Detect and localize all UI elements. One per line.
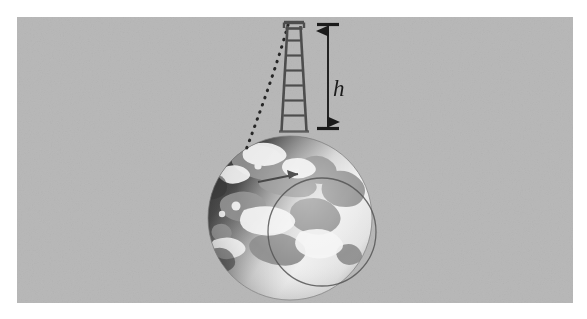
figure-root: h — [0, 0, 587, 319]
figure-panel: h — [17, 17, 573, 303]
height-label: h — [333, 77, 345, 100]
continents — [197, 136, 372, 300]
scene-drawing — [17, 17, 573, 303]
earth-globe — [197, 136, 372, 300]
